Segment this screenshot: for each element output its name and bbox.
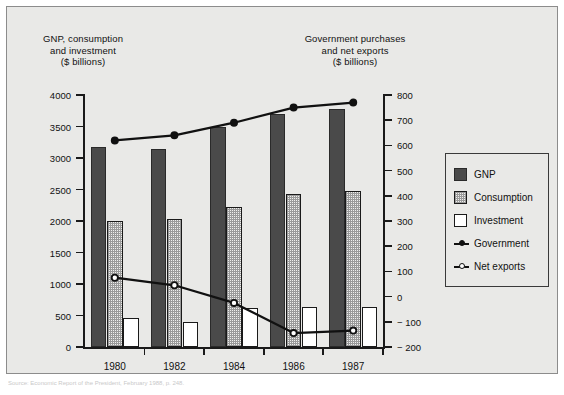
open-circle-marker-icon bbox=[454, 260, 469, 273]
right-tick bbox=[383, 321, 392, 323]
x-tick bbox=[263, 347, 265, 355]
right-tick bbox=[383, 220, 392, 222]
net-exports-marker bbox=[291, 330, 297, 336]
left-tick-label: 3500 bbox=[50, 121, 71, 132]
left-tick-label: 1000 bbox=[50, 279, 71, 290]
left-axis-title: GNP, consumption and investment ($ billi… bbox=[17, 33, 149, 68]
right-tick-label: 0 bbox=[397, 291, 402, 302]
left-tick-label: 0 bbox=[66, 342, 71, 353]
right-axis-title: Government purchases and net exports ($ … bbox=[283, 33, 427, 68]
government-marker bbox=[291, 105, 297, 111]
x-tick-label: 1986 bbox=[282, 361, 304, 372]
legend-label-government: Government bbox=[474, 238, 529, 249]
source-note: Source: Economic Report of the President… bbox=[8, 380, 548, 386]
right-tick-label: 100 bbox=[397, 266, 413, 277]
right-tick-label: 300 bbox=[397, 216, 413, 227]
left-tick bbox=[76, 220, 85, 222]
left-tick bbox=[76, 346, 85, 348]
x-tick-label: 1987 bbox=[342, 361, 364, 372]
x-axis-baseline bbox=[83, 347, 385, 349]
right-tick bbox=[383, 195, 392, 197]
left-tick-label: 2500 bbox=[50, 184, 71, 195]
left-tick bbox=[76, 315, 85, 317]
net-exports-marker bbox=[350, 328, 356, 334]
legend-label-net-exports: Net exports bbox=[474, 261, 525, 272]
left-tick bbox=[76, 94, 85, 96]
right-tick-label: 200 bbox=[397, 241, 413, 252]
net-exports-marker bbox=[112, 275, 118, 281]
consumption-swatch-icon bbox=[454, 191, 467, 204]
right-tick bbox=[383, 346, 392, 348]
legend-label-consumption: Consumption bbox=[474, 192, 533, 203]
legend-item-investment: Investment bbox=[454, 209, 548, 232]
government-marker bbox=[231, 120, 237, 126]
x-tick bbox=[203, 347, 205, 355]
right-tick-label: 600 bbox=[397, 140, 413, 151]
right-tick bbox=[383, 94, 392, 96]
investment-swatch-icon bbox=[454, 214, 467, 227]
right-tick bbox=[383, 245, 392, 247]
net-exports-marker bbox=[171, 282, 177, 288]
x-tick-label: 1980 bbox=[104, 361, 126, 372]
x-tick bbox=[144, 347, 146, 355]
x-tick-label: 1982 bbox=[163, 361, 185, 372]
left-tick-label: 500 bbox=[55, 310, 71, 321]
gnp-swatch-icon bbox=[454, 168, 467, 181]
x-tick bbox=[382, 347, 384, 355]
right-tick bbox=[383, 145, 392, 147]
legend-item-net-exports: Net exports bbox=[454, 255, 548, 278]
net-exports-marker bbox=[231, 300, 237, 306]
line-series-overlay bbox=[85, 95, 383, 347]
left-tick bbox=[76, 283, 85, 285]
legend-item-gnp: GNP bbox=[454, 163, 548, 186]
right-tick-label: 400 bbox=[397, 190, 413, 201]
right-tick-label: 700 bbox=[397, 115, 413, 126]
left-tick-label: 2000 bbox=[50, 216, 71, 227]
left-tick-label: 4000 bbox=[50, 90, 71, 101]
left-tick bbox=[76, 126, 85, 128]
left-tick bbox=[76, 189, 85, 191]
left-tick bbox=[76, 252, 85, 254]
legend-item-government: Government bbox=[454, 232, 548, 255]
x-tick-label: 1984 bbox=[223, 361, 245, 372]
chart-figure: GNP, consumption and investment ($ billi… bbox=[0, 0, 564, 395]
right-tick bbox=[383, 271, 392, 273]
government-marker bbox=[350, 100, 356, 106]
legend-label-investment: Investment bbox=[474, 215, 523, 226]
right-tick bbox=[383, 170, 392, 172]
left-tick-label: 3000 bbox=[50, 153, 71, 164]
chart-legend: GNP Consumption Investment Government Ne… bbox=[445, 153, 549, 287]
right-tick-label: − 100 bbox=[397, 316, 421, 327]
right-tick bbox=[383, 296, 392, 298]
government-marker bbox=[171, 132, 177, 138]
legend-label-gnp: GNP bbox=[474, 169, 496, 180]
government-marker bbox=[112, 137, 118, 143]
x-tick bbox=[322, 347, 324, 355]
plot-area: 05001000150020002500300035004000 − 200− … bbox=[85, 95, 383, 347]
right-tick-label: 800 bbox=[397, 90, 413, 101]
right-tick bbox=[383, 119, 392, 121]
right-tick-label: − 200 bbox=[397, 342, 421, 353]
filled-circle-marker-icon bbox=[454, 237, 469, 250]
right-tick-label: 500 bbox=[397, 165, 413, 176]
legend-item-consumption: Consumption bbox=[454, 186, 548, 209]
left-tick-label: 1500 bbox=[50, 247, 71, 258]
left-tick bbox=[76, 157, 85, 159]
chart-panel: GNP, consumption and investment ($ billi… bbox=[6, 6, 558, 374]
